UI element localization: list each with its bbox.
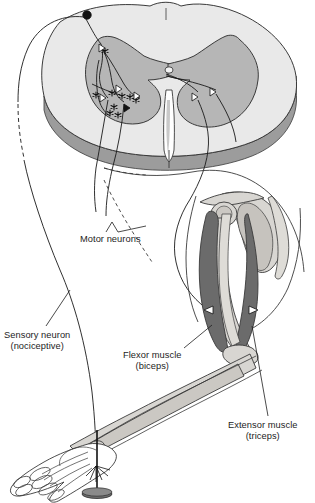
pin-head-top <box>82 488 112 496</box>
leader-motor-neurons <box>106 222 118 232</box>
label-flexor-muscle-line1: Flexor muscle <box>123 350 182 360</box>
label-sensory-neuron-line1: Sensory neuron <box>4 330 70 340</box>
central-canal <box>165 67 173 73</box>
arm-outline-left <box>186 196 198 322</box>
leader-motor-neurons-b <box>118 226 146 232</box>
afferent-lower <box>24 160 96 466</box>
reflex-arc-figure: arucate anomia for anomia for <box>0 0 315 503</box>
label-sensory-neuron-line2: (nociceptive) <box>4 341 70 352</box>
leader-extensor-muscle <box>252 326 268 416</box>
sensory-cell-body <box>83 11 91 19</box>
label-flexor-muscle-line2: (biceps) <box>123 361 182 372</box>
label-motor-neurons: Motor neurons <box>80 234 141 245</box>
leader-flexor-muscle <box>184 325 212 348</box>
spinal-cord-cross-section <box>42 2 297 170</box>
label-flexor-muscle: Flexor muscle (biceps) <box>123 350 182 373</box>
afferent-dashed-segment <box>18 104 24 158</box>
label-extensor-muscle: Extensor muscle (triceps) <box>228 420 297 443</box>
label-extensor-muscle-line1: Extensor muscle <box>228 420 297 430</box>
label-motor-neurons-line1: Motor neurons <box>80 234 141 244</box>
label-extensor-muscle-line2: (triceps) <box>228 431 297 442</box>
dashed-branch <box>104 180 152 262</box>
label-sensory-neuron: Sensory neuron (nociceptive) <box>4 330 70 353</box>
leader-sensory-neuron <box>46 290 70 326</box>
